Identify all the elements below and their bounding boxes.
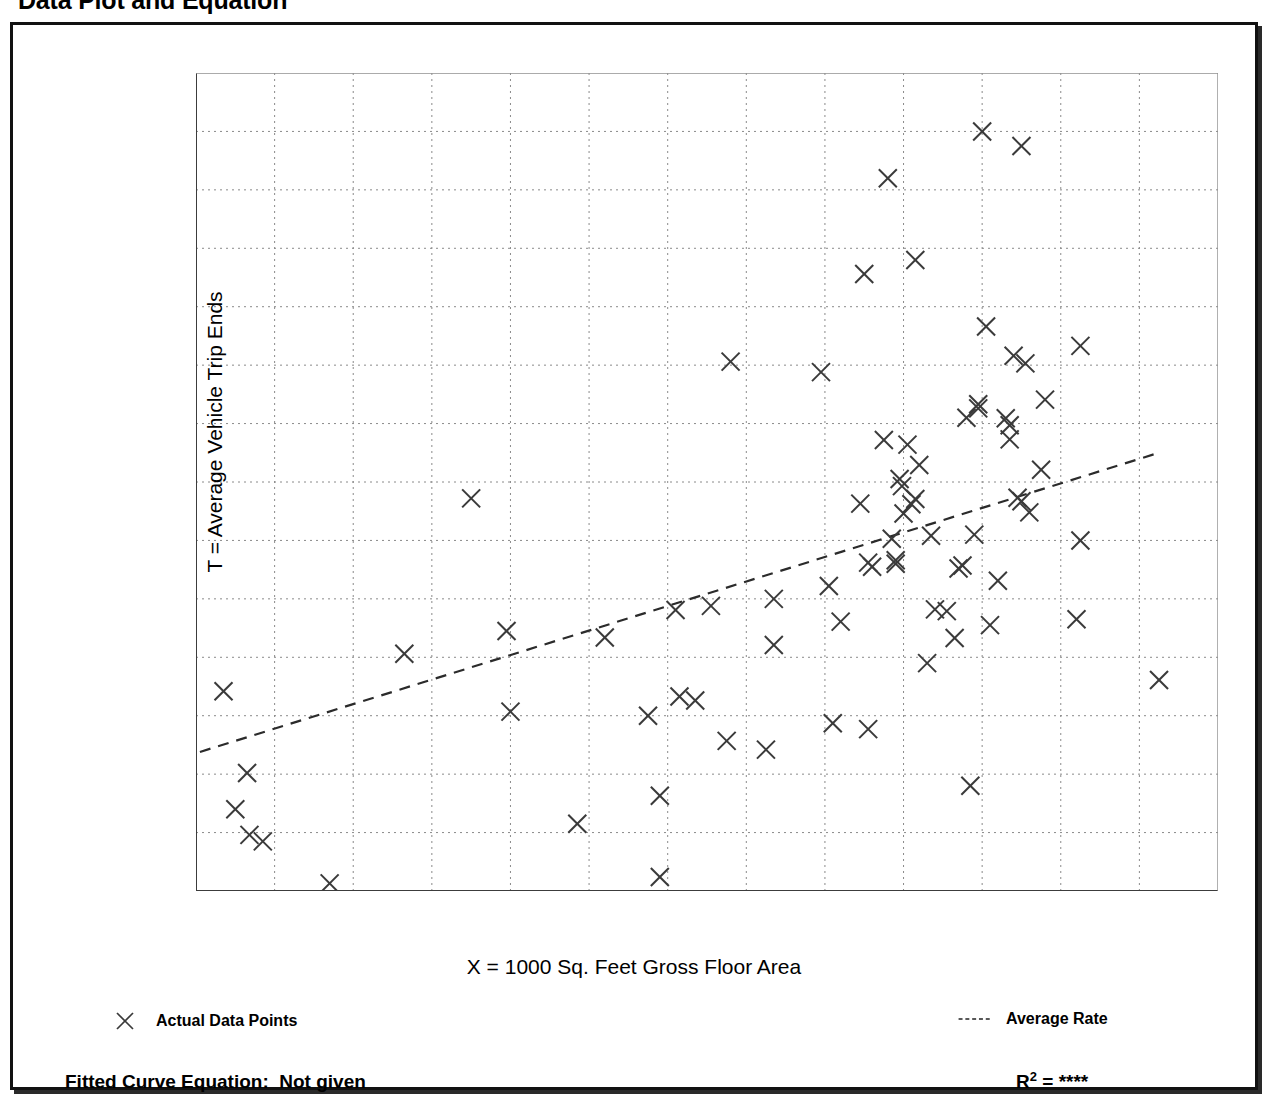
fitted-curve-equation-value: Not given [279,1071,366,1092]
data-point [1036,391,1054,409]
data-point [718,732,736,750]
data-point [961,777,979,795]
data-point [596,628,614,646]
data-point [910,456,928,474]
data-point [969,399,987,417]
fitted-curve-equation-label: Fitted Curve Equation: [65,1071,269,1092]
data-point [883,530,901,548]
data-point [215,682,233,700]
data-point [832,613,850,631]
data-point [957,409,975,427]
fitted-curve-equation: Fitted Curve Equation: Not given [65,1071,366,1093]
data-point [568,815,586,833]
data-point [812,363,830,381]
data-point [757,741,775,759]
data-point [1016,354,1034,372]
data-point [1150,671,1168,689]
r-squared-stars: **** [1059,1071,1089,1092]
legend-item-actual-data-points: Actual Data Points [108,1010,297,1032]
data-point [946,629,964,647]
data-point [1067,610,1085,628]
data-point [498,622,516,640]
r-squared-label: R [1016,1071,1030,1092]
data-point [1032,461,1050,479]
grid-lines [196,73,1218,891]
data-point [898,436,916,454]
legend-item-average-rate: Average Rate [958,1010,1108,1028]
data-point [879,169,897,187]
average-rate-trendline [200,454,1155,752]
data-point [906,490,924,508]
data-point [851,495,869,513]
data-point [981,616,999,634]
data-point [977,318,995,336]
legend-label-actual-data-points: Actual Data Points [156,1012,297,1030]
r-squared-value: R2 = **** [1016,1069,1088,1093]
plot-area: 3004005006007008009001,0001,1001,2001,30… [196,73,1218,891]
data-point [238,764,256,782]
scatter-plot-svg: 3004005006007008009001,0001,1001,2001,30… [196,73,1218,891]
data-point [906,251,924,269]
data-point [859,720,877,738]
data-point [989,572,1007,590]
data-point [226,800,244,818]
data-point [820,577,838,595]
x-axis-title: X = 1000 Sq. Feet Gross Floor Area [13,955,1255,979]
data-point [1071,531,1089,549]
data-point [1005,347,1023,365]
data-point [651,868,669,886]
data-point [824,714,842,732]
data-point [686,692,704,710]
data-point [501,703,519,721]
data-point [863,558,881,576]
chart-frame: 3004005006007008009001,0001,1001,2001,30… [10,22,1258,1090]
data-point [965,526,983,544]
data-point [887,551,905,569]
data-point [895,505,913,523]
data-point [1020,503,1038,521]
y-axis-title: T = Average Vehicle Trip Ends [203,222,227,642]
data-point [938,602,956,620]
data-point-series [215,122,1169,891]
data-point [651,787,669,805]
data-point [887,555,905,573]
data-point [670,687,688,705]
data-point [321,874,339,891]
data-point [1001,430,1019,448]
data-point [918,654,936,672]
page-title: Data Plot and Equation [18,0,287,15]
x-marker-icon [108,1010,142,1032]
data-point [922,527,940,545]
legend-label-average-rate: Average Rate [1006,1010,1108,1028]
data-point [722,353,740,371]
data-point [1071,337,1089,355]
data-point [1001,416,1019,434]
data-point [969,395,987,413]
data-point [395,645,413,663]
data-point [997,409,1015,427]
data-point [855,265,873,283]
dashed-line-icon [958,1013,992,1025]
data-point [1012,137,1030,155]
data-point [462,489,480,507]
data-point [702,597,720,615]
data-point [765,636,783,654]
r-squared-equals: = [1042,1071,1053,1092]
r-squared-exponent: 2 [1030,1069,1037,1084]
data-point [891,470,909,488]
data-point [875,431,893,449]
